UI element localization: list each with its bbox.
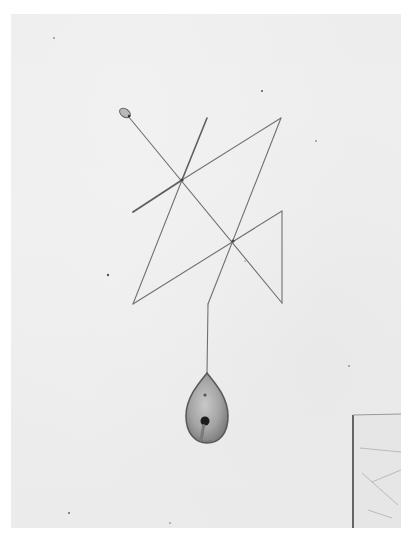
wall-specks [53, 37, 350, 524]
teardrop-pendant [186, 373, 228, 443]
framed-panel [352, 414, 401, 528]
wire-sculpture [11, 14, 401, 528]
wire-joints [180, 178, 234, 242]
wire-frame [128, 116, 282, 374]
photograph [11, 14, 401, 528]
